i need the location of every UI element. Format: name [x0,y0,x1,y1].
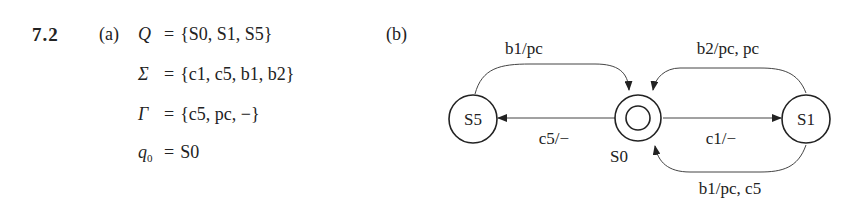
transition-label: c1/− [706,129,736,148]
state-label: S0 [610,147,628,166]
transition-label: c5/− [539,129,569,148]
state-s0: S0 [610,95,661,166]
transition-label: b1/pc [505,39,543,58]
transition-s5-s0-arrow [475,64,629,94]
transition-label: b2/pc, pc [697,39,760,58]
state-s5: S5 [449,95,497,143]
transition-label: b1/pc, c5 [699,179,761,198]
state-label: S1 [797,110,815,129]
state-label: S5 [464,110,482,129]
transition-s1-s0-top-arrow [653,68,806,93]
state-s1: S1 [782,95,830,143]
state-diagram: b1/pc b2/pc, pc c5/− c1/− b1/pc, c5 S5 S… [0,0,862,200]
transition-s1-s0-bottom-arrow [655,145,806,172]
